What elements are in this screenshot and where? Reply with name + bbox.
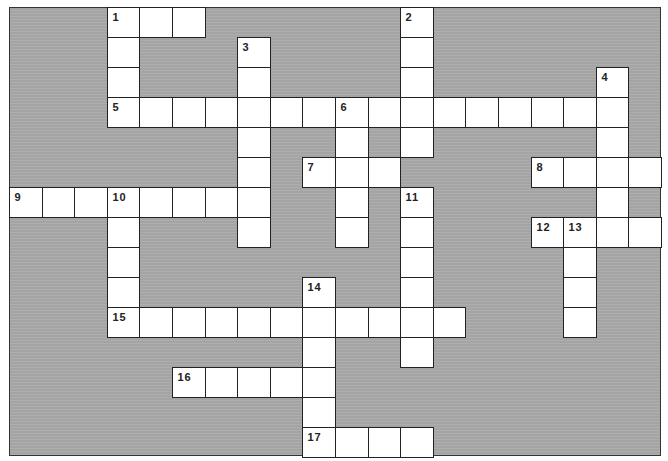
crossword-cell[interactable]: 8: [531, 157, 565, 189]
crossword-cell[interactable]: [302, 337, 337, 369]
crossword-cell[interactable]: 11: [400, 187, 435, 219]
crossword-cell[interactable]: [42, 187, 76, 219]
clue-number: 7: [308, 161, 315, 173]
crossword-cell[interactable]: [302, 367, 337, 399]
crossword-cell[interactable]: 16: [172, 367, 207, 399]
crossword-cell[interactable]: [596, 97, 630, 129]
crossword-cell[interactable]: [172, 97, 207, 129]
crossword-cell[interactable]: [433, 307, 467, 339]
crossword-cell[interactable]: [400, 337, 435, 369]
crossword-cell[interactable]: [368, 427, 402, 459]
crossword-cell[interactable]: [237, 157, 272, 189]
crossword-cell[interactable]: [237, 67, 272, 99]
crossword-cell[interactable]: [237, 187, 272, 219]
crossword-cell[interactable]: [237, 97, 272, 129]
crossword-cell[interactable]: [107, 217, 141, 249]
crossword-cell[interactable]: [335, 427, 370, 459]
crossword-cell[interactable]: [563, 97, 598, 129]
clue-number: 17: [308, 431, 322, 443]
crossword-cell[interactable]: [368, 157, 402, 189]
clue-number: 5: [113, 101, 120, 113]
crossword-cell[interactable]: [400, 97, 435, 129]
crossword-cell[interactable]: [107, 67, 141, 99]
crossword-cell[interactable]: [400, 247, 435, 279]
crossword-cell[interactable]: [563, 157, 598, 189]
crossword-cell[interactable]: [596, 157, 630, 189]
crossword-cell[interactable]: [302, 397, 337, 429]
crossword-cell[interactable]: 4: [596, 67, 630, 99]
crossword-cell[interactable]: [139, 97, 174, 129]
crossword-cell[interactable]: 12: [531, 217, 565, 249]
crossword-cell[interactable]: [596, 187, 630, 219]
crossword-cell[interactable]: [270, 367, 304, 399]
crossword-cell[interactable]: 6: [335, 97, 370, 129]
crossword-cell[interactable]: [107, 247, 141, 279]
crossword-cell[interactable]: [237, 127, 272, 159]
crossword-cell[interactable]: [563, 307, 598, 339]
crossword-cell[interactable]: [628, 217, 663, 249]
crossword-cell[interactable]: [270, 97, 304, 129]
crossword-cell[interactable]: 1: [107, 7, 141, 39]
crossword-cell[interactable]: [302, 97, 337, 129]
crossword-cell[interactable]: [139, 187, 174, 219]
crossword-cell[interactable]: [139, 307, 174, 339]
crossword-cell[interactable]: [335, 307, 370, 339]
clue-number: 3: [243, 41, 250, 53]
clue-number: 6: [341, 101, 348, 113]
crossword-cell[interactable]: [596, 217, 630, 249]
crossword-cell[interactable]: 9: [9, 187, 44, 219]
crossword-cell[interactable]: [172, 307, 207, 339]
crossword-cell[interactable]: [172, 187, 207, 219]
crossword-cell[interactable]: 5: [107, 97, 141, 129]
crossword-cell[interactable]: [563, 277, 598, 309]
crossword-cell[interactable]: [368, 97, 402, 129]
crossword-cell[interactable]: [335, 187, 370, 219]
crossword-cell[interactable]: [400, 67, 435, 99]
crossword-cell[interactable]: 13: [563, 217, 598, 249]
clue-number: 13: [569, 221, 583, 233]
crossword-cell[interactable]: [172, 7, 207, 39]
crossword-cell[interactable]: [400, 277, 435, 309]
clue-number: 8: [537, 161, 544, 173]
crossword-cell[interactable]: [205, 307, 239, 339]
crossword-cell[interactable]: [400, 427, 435, 459]
crossword-cell[interactable]: [335, 157, 370, 189]
crossword-cell[interactable]: 7: [302, 157, 337, 189]
crossword-cell[interactable]: [107, 277, 141, 309]
crossword-cell[interactable]: [531, 97, 565, 129]
crossword-cell[interactable]: [368, 307, 402, 339]
crossword-cell[interactable]: [237, 367, 272, 399]
crossword-cell[interactable]: [400, 307, 435, 339]
crossword-cell[interactable]: [628, 157, 663, 189]
crossword-cell[interactable]: [433, 97, 467, 129]
crossword-cell[interactable]: 14: [302, 277, 337, 309]
crossword-cell[interactable]: [205, 367, 239, 399]
clue-number: 4: [602, 71, 609, 83]
crossword-cell[interactable]: [400, 127, 435, 159]
crossword-cell[interactable]: [205, 97, 239, 129]
crossword-cell[interactable]: 3: [237, 37, 272, 69]
crossword-cell[interactable]: [498, 97, 533, 129]
clue-number: 1: [113, 11, 120, 23]
crossword-cell[interactable]: 2: [400, 7, 435, 39]
crossword-cell[interactable]: [237, 217, 272, 249]
crossword-cell[interactable]: 10: [107, 187, 141, 219]
crossword-cell[interactable]: [596, 127, 630, 159]
crossword-cell[interactable]: [563, 247, 598, 279]
crossword-cell[interactable]: [465, 97, 500, 129]
crossword-cell[interactable]: 17: [302, 427, 337, 459]
clue-number: 11: [406, 191, 420, 203]
crossword-cell[interactable]: [205, 187, 239, 219]
crossword-cell[interactable]: [107, 37, 141, 69]
crossword-cell[interactable]: [400, 37, 435, 69]
crossword-cell[interactable]: [139, 7, 174, 39]
crossword-cell[interactable]: [335, 127, 370, 159]
crossword-cell[interactable]: [335, 217, 370, 249]
crossword-cell[interactable]: [270, 307, 304, 339]
crossword-cell[interactable]: [400, 217, 435, 249]
crossword-cell[interactable]: [237, 307, 272, 339]
crossword-cell[interactable]: [302, 307, 337, 339]
crossword-cell[interactable]: 15: [107, 307, 141, 339]
crossword-cell[interactable]: [74, 187, 109, 219]
clue-number: 2: [406, 11, 413, 23]
